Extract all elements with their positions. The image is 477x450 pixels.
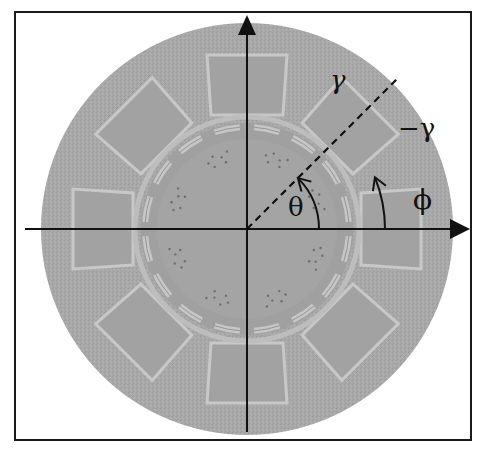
neg-gamma-label: −γ xyxy=(398,115,435,141)
rotor-dot xyxy=(317,202,319,204)
rotor-dot xyxy=(174,262,176,264)
rotor-dot xyxy=(168,248,170,250)
gamma-label: γ xyxy=(330,67,346,93)
rotor-dot xyxy=(177,187,179,189)
rotor-dot xyxy=(180,266,182,268)
rotor-dot xyxy=(225,161,227,163)
rotor-dot xyxy=(308,195,310,197)
diagram-canvas xyxy=(0,0,477,450)
rotor-dot xyxy=(314,261,316,263)
rotor-dot xyxy=(225,295,227,297)
rotor-dot xyxy=(267,161,269,163)
rotor-dot xyxy=(213,290,215,292)
rotor-dot xyxy=(313,207,315,209)
rotor-dot xyxy=(284,293,286,295)
rotor-dot xyxy=(174,253,176,255)
rotor-dot xyxy=(207,162,209,164)
rotor-dot xyxy=(321,255,323,257)
rotor-dot xyxy=(205,297,207,299)
rotor-dot xyxy=(170,201,172,203)
rotor-dot xyxy=(213,166,215,168)
phi-label: ϕ xyxy=(413,186,432,214)
rotor-dot xyxy=(319,247,321,249)
rotor-dot xyxy=(213,296,215,298)
rotor-dot xyxy=(279,159,281,161)
rotor-dot xyxy=(211,156,213,158)
rotor-dot xyxy=(184,260,186,262)
rotor-dot xyxy=(271,299,273,301)
rotor-dot xyxy=(308,260,310,262)
rotor-dot xyxy=(220,156,222,158)
rotor-dot xyxy=(177,195,179,197)
rotor-dot xyxy=(278,290,280,292)
rotor-dot xyxy=(273,152,275,154)
rotor-dot xyxy=(265,154,267,156)
rotor-dot xyxy=(286,159,288,161)
theta-label: θ xyxy=(288,194,304,220)
rotor-dot xyxy=(266,305,268,307)
rotor-dot xyxy=(280,300,282,302)
rotor-dot xyxy=(219,303,221,305)
rotor-dot xyxy=(313,249,315,251)
rotor-dot xyxy=(227,301,229,303)
rotor-dot xyxy=(179,249,181,251)
rotor-dot xyxy=(226,150,228,152)
rotor-dot xyxy=(184,195,186,197)
stator-rotor-diagram: γ −γ θ ϕ xyxy=(0,0,477,450)
rotor-dot xyxy=(323,208,325,210)
rotor-dot xyxy=(267,295,269,297)
rotor-dot xyxy=(179,207,181,209)
rotor-dot xyxy=(172,209,174,211)
rotor-dot xyxy=(278,166,280,168)
rotor-dot xyxy=(315,268,317,270)
rotor-dot xyxy=(311,189,313,191)
rotor-dot xyxy=(318,193,320,195)
